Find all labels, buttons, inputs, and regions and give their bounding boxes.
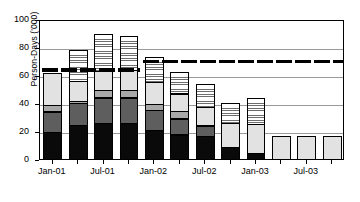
reference-line-dash xyxy=(143,60,159,64)
bar-segment-segment-5-hatched xyxy=(196,84,215,108)
x-axis-tick-mark xyxy=(306,160,307,164)
bar-segment-segment-2-dark-gray xyxy=(69,103,88,125)
x-axis-tick-mark xyxy=(331,160,332,164)
x-axis-tick-mark xyxy=(128,160,129,164)
bar-segment-segment-1-black xyxy=(170,135,189,160)
bar-apr-01[interactable] xyxy=(69,50,88,159)
reference-line-dash xyxy=(276,60,292,64)
bar-segment-segment-5-hatched xyxy=(247,98,266,125)
bar-segment-segment-1-black xyxy=(69,125,88,160)
reference-line-dash xyxy=(118,68,134,72)
reference-line-dash xyxy=(99,68,115,72)
bar-jan-01[interactable] xyxy=(43,73,62,159)
bar-jul-03[interactable] xyxy=(297,136,316,159)
bar-apr-02[interactable] xyxy=(170,72,189,159)
plot-area xyxy=(39,20,344,160)
bar-segment-segment-4-light-gray xyxy=(297,136,316,160)
x-axis-tick-mark xyxy=(230,160,231,164)
reference-line-dash xyxy=(314,60,330,64)
bar-oct-03[interactable] xyxy=(323,136,342,159)
bar-segment-segment-5-hatched xyxy=(69,50,88,82)
reference-line-dash xyxy=(42,68,58,72)
bar-segment-segment-4-light-gray xyxy=(196,107,215,127)
x-axis-tick-label: Jul-03 xyxy=(276,166,336,176)
bar-jan-02[interactable] xyxy=(145,57,164,159)
bar-segment-segment-4-light-gray xyxy=(145,82,164,104)
reference-line-dash xyxy=(181,60,197,64)
bar-jul-02[interactable] xyxy=(196,84,215,159)
bar-segment-segment-5-hatched xyxy=(120,36,139,71)
reference-line-dash xyxy=(80,68,96,72)
x-axis-tick-mark xyxy=(52,160,53,164)
bar-segment-segment-2-dark-gray xyxy=(94,98,113,125)
bar-segment-segment-4-light-gray xyxy=(221,123,240,148)
x-axis-tick-mark xyxy=(77,160,78,164)
x-axis-tick-mark xyxy=(255,160,256,164)
bar-segment-segment-5-hatched xyxy=(94,34,113,72)
bar-segment-segment-2-dark-gray xyxy=(145,110,164,131)
y-axis-tick-mark xyxy=(35,160,39,161)
x-axis-tick-mark xyxy=(153,160,154,164)
bar-jan-03[interactable] xyxy=(247,98,266,159)
bar-segment-segment-2-dark-gray xyxy=(170,119,189,136)
reference-line-dash xyxy=(219,60,235,64)
y-axis-title: Person-Days ('000) xyxy=(29,0,39,109)
reference-line-dash xyxy=(238,60,254,64)
bar-segment-segment-4-light-gray xyxy=(323,136,342,160)
bar-oct-01[interactable] xyxy=(120,36,139,159)
y-axis-tick-label: 0 xyxy=(5,155,29,164)
bar-segment-segment-4-light-gray xyxy=(120,70,139,91)
bar-oct-02[interactable] xyxy=(221,103,240,159)
chart-container: Person-Days ('000) 020406080100 Jan-01Ju… xyxy=(0,0,360,202)
bar-segment-segment-1-black xyxy=(94,123,113,159)
bar-segment-segment-1-black xyxy=(43,132,62,160)
bar-segment-segment-4-light-gray xyxy=(170,94,189,112)
y-axis-tick-label: 100 xyxy=(5,15,29,24)
x-axis-tick-mark xyxy=(204,160,205,164)
bar-segment-segment-1-black xyxy=(247,153,266,160)
bar-segment-segment-1-black xyxy=(145,130,164,159)
bar-segment-segment-4-light-gray xyxy=(43,73,62,107)
reference-line-dash xyxy=(333,60,343,64)
bar-apr-03[interactable] xyxy=(272,136,291,159)
bar-segment-segment-5-hatched xyxy=(221,103,240,124)
bar-segment-segment-4-light-gray xyxy=(94,71,113,91)
reference-line-dash xyxy=(137,68,141,72)
y-axis-tick-label: 60 xyxy=(5,71,29,80)
x-axis-tick-mark xyxy=(179,160,180,164)
reference-line-dash xyxy=(295,60,311,64)
bar-segment-segment-1-black xyxy=(196,136,215,160)
reference-line-dash xyxy=(61,68,77,72)
reference-line-dash xyxy=(162,60,178,64)
reference-line-dash xyxy=(257,60,273,64)
bar-segment-segment-5-hatched xyxy=(170,72,189,94)
x-axis-tick-mark xyxy=(103,160,104,164)
reference-line-dash xyxy=(200,60,216,64)
bar-segment-segment-2-dark-gray xyxy=(43,112,62,133)
y-axis-tick-label: 20 xyxy=(5,127,29,136)
bar-segment-segment-4-light-gray xyxy=(69,81,88,102)
bar-segment-segment-4-light-gray xyxy=(272,136,291,160)
y-axis-tick-label: 40 xyxy=(5,99,29,108)
y-axis-tick-label: 80 xyxy=(5,43,29,52)
bar-jul-01[interactable] xyxy=(94,34,113,159)
bar-segment-segment-2-dark-gray xyxy=(120,98,139,125)
x-axis-tick-mark xyxy=(280,160,281,164)
bar-segment-segment-1-black xyxy=(120,123,139,159)
bar-segment-segment-4-light-gray xyxy=(247,124,266,153)
bar-segment-segment-1-black xyxy=(221,147,240,160)
